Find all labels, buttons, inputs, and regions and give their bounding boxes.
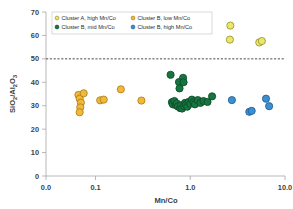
y-tick-label: 0	[35, 172, 39, 181]
data-point	[227, 22, 234, 29]
y-tick-label: 60	[31, 31, 39, 40]
svg-text:SiO2/Al2O3: SiO2/Al2O3	[8, 75, 18, 113]
series-3	[228, 95, 272, 115]
data-point	[262, 95, 269, 102]
y-axis-title: SiO2/Al2O3	[8, 75, 18, 113]
y-tick-label: 40	[31, 78, 39, 87]
x-tick-label: 0.1	[90, 183, 100, 192]
data-point	[76, 109, 83, 116]
legend-label-3: Cluster B, high Mn/Co	[138, 24, 193, 30]
data-point-group	[75, 22, 273, 116]
series-1	[75, 86, 145, 116]
x-tick-label: 10.0	[278, 183, 292, 192]
data-point	[208, 93, 215, 100]
legend-marker-2	[55, 25, 59, 29]
data-point	[138, 97, 145, 104]
chart-legend: Cluster A, high Mn/CoCluster B, mid Mn/C…	[52, 12, 212, 34]
data-point	[167, 71, 174, 78]
data-point	[226, 36, 233, 43]
x-axis-title: Mn/Co	[154, 196, 178, 205]
scatter-chart-figure: 010203040506070 0.00.11.010.0 SiO2/Al2O3…	[0, 0, 293, 209]
series-2	[167, 71, 216, 112]
legend-marker-1	[131, 16, 135, 20]
y-title-si: SiO	[8, 100, 17, 113]
y-title-o-sub: 3	[12, 75, 18, 78]
legend-label-0: Cluster A, high Mn/Co	[62, 15, 116, 21]
y-tick-label: 20	[31, 125, 39, 134]
x-axis-ticks: 0.00.11.010.0	[41, 176, 292, 192]
data-point	[266, 103, 273, 110]
y-title-slash: /Al	[8, 87, 17, 97]
y-tick-label: 30	[31, 101, 39, 110]
data-point	[258, 37, 265, 44]
series-0	[226, 22, 265, 46]
y-tick-label: 70	[31, 8, 39, 17]
legend-marker-0	[55, 16, 59, 20]
data-point	[228, 96, 235, 103]
data-point	[80, 90, 87, 97]
legend-label-1: Cluster B, low Mn/Co	[138, 15, 191, 21]
x-tick-label: 0.0	[41, 183, 51, 192]
data-point	[100, 96, 107, 103]
x-tick-label: 1.0	[185, 183, 195, 192]
y-tick-label: 50	[31, 54, 39, 63]
data-point	[180, 79, 187, 86]
legend-marker-3	[131, 25, 135, 29]
y-tick-label: 10	[31, 148, 39, 157]
y-axis-ticks: 010203040506070	[31, 8, 46, 181]
data-point	[117, 86, 124, 93]
data-point	[248, 107, 255, 114]
legend-label-2: Cluster B, mid Mn/Co	[62, 24, 115, 30]
plot-canvas: 010203040506070 0.00.11.010.0 SiO2/Al2O3…	[0, 0, 293, 209]
